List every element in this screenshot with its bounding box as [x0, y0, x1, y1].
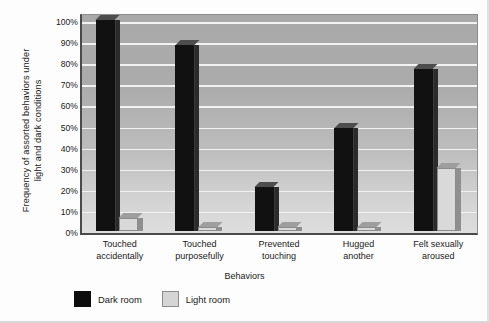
bar-dark-room [255, 187, 274, 231]
y-axis-tick-label: 90% [40, 38, 78, 48]
legend-swatch-icon [162, 291, 179, 307]
legend-label: Light room [186, 294, 230, 305]
bar-group [400, 15, 478, 233]
bar-side-face [456, 168, 461, 231]
bar-dark-room [175, 45, 194, 231]
bar-dark-room [414, 69, 433, 231]
x-axis-tick-label: Huggedanother [319, 239, 399, 262]
y-axis-tick-label: 0% [40, 228, 78, 238]
plot-inner [82, 15, 477, 233]
axis-baseline [82, 233, 477, 235]
bar-side-face [138, 218, 143, 231]
bar-side-face [217, 227, 222, 231]
bar-light-room [119, 218, 138, 231]
x-axis-tick-label: Felt sexuallyaroused [398, 239, 478, 262]
x-axis-tick-label-line: accidentally [80, 251, 160, 263]
bar-group [82, 15, 162, 233]
legend-item-light-room[interactable]: Light room [162, 291, 230, 307]
y-axis-tick-label: 60% [40, 101, 78, 111]
x-axis-tick-label-line: aroused [398, 251, 478, 263]
x-axis-tick-label-line: Hugged [319, 239, 399, 251]
bar-face [119, 218, 138, 231]
bar-face [334, 128, 354, 231]
x-axis-tick-label: Touchedaccidentally [80, 239, 160, 262]
bar-face [278, 227, 297, 231]
plot-area [80, 14, 478, 235]
y-axis-tick-label: 40% [40, 144, 78, 154]
legend-item-dark-room[interactable]: Dark room [74, 291, 142, 307]
bar-face [414, 69, 434, 231]
bar-light-room [437, 168, 456, 231]
bar-face [255, 187, 275, 231]
bar-side-face [297, 227, 302, 231]
y-axis-tick-label: 30% [40, 165, 78, 175]
x-axis-tick-label-line: purposefully [160, 251, 240, 263]
x-axis-tick-label: Touchedpurposefully [160, 239, 240, 262]
y-axis-title-line1: Frequency of assorted behaviors under [20, 14, 32, 246]
y-axis-tick-label: 50% [40, 123, 78, 133]
bar-light-room [198, 227, 217, 231]
bar-dark-room [96, 20, 115, 231]
x-axis-tick-label-line: touching [239, 251, 319, 263]
y-axis-tick-labels: 0%10%20%30%40%50%60%70%80%90%100% [40, 14, 78, 234]
bar-light-room [278, 227, 297, 231]
chart-legend: Dark roomLight room [74, 291, 230, 307]
legend-swatch-icon [74, 291, 91, 307]
x-axis-tick-label-line: Touched [80, 239, 160, 251]
x-axis-tick-label-line: another [319, 251, 399, 263]
bar-light-room [357, 227, 376, 231]
bar-face [437, 168, 456, 231]
y-axis-tick-label: 100% [40, 17, 78, 27]
x-axis-tick-label-line: Felt sexually [398, 239, 478, 251]
x-axis-title: Behaviors [0, 271, 489, 281]
bar-face [357, 227, 376, 231]
bar-face [198, 227, 217, 231]
y-axis-tick-label: 10% [40, 207, 78, 217]
bar-side-face [376, 227, 381, 231]
bar-face [96, 20, 116, 231]
x-axis-tick-labels: TouchedaccidentallyTouchedpurposefullyPr… [80, 239, 478, 271]
x-axis-tick-label: Preventedtouching [239, 239, 319, 262]
y-axis-tick-label: 70% [40, 80, 78, 90]
bar-group [162, 15, 242, 233]
bar-face [175, 45, 195, 231]
bar-dark-room [334, 128, 353, 231]
y-axis-tick-label: 80% [40, 59, 78, 69]
bar-group [241, 15, 321, 233]
chart-figure: Frequency of assorted behaviors under li… [0, 0, 489, 323]
x-axis-tick-label-line: Prevented [239, 239, 319, 251]
bar-group [321, 15, 401, 233]
x-axis-tick-label-line: Touched [160, 239, 240, 251]
legend-label: Dark room [98, 294, 142, 305]
y-axis-tick-label: 20% [40, 186, 78, 196]
